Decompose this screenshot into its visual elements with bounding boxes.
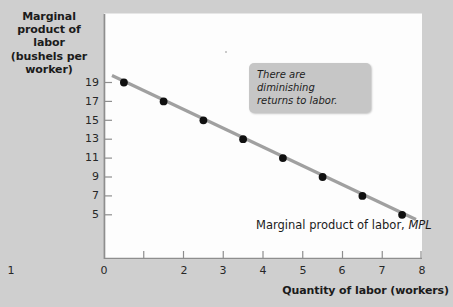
- x-tick-label-5: 5: [292, 264, 314, 277]
- x-tick-label-4: 4: [252, 264, 274, 277]
- callout-line-1: There are diminishing: [257, 68, 363, 94]
- speck-artifact: [225, 51, 227, 53]
- curve-label-mpl: MPL: [408, 218, 431, 232]
- data-point-6: [359, 192, 367, 200]
- data-point-5: [319, 173, 327, 181]
- x-tick-label-8: 8: [411, 264, 433, 277]
- x-tick-label-1: 1: [0, 264, 22, 277]
- x-axis-title: Quantity of labor (workers): [213, 284, 449, 297]
- x-tick-label-7: 7: [371, 264, 393, 277]
- y-tick-label-5: 5: [73, 208, 99, 221]
- y-tick-label-15: 15: [73, 114, 99, 127]
- x-tick-label-6: 6: [331, 264, 353, 277]
- curve-label-text: Marginal product of labor,: [256, 218, 408, 232]
- data-point-4: [279, 154, 287, 162]
- x-tick-marks: [144, 251, 421, 258]
- y-axis-title-line-4: worker): [0, 63, 98, 76]
- y-axis-title-line-2: product of labor: [0, 23, 98, 49]
- y-tick-label-17: 17: [73, 95, 99, 108]
- x-tick-label-3: 3: [212, 264, 234, 277]
- y-axis-title-line-1: Marginal: [0, 10, 98, 23]
- y-tick-label-11: 11: [73, 151, 99, 164]
- y-tick-marks: [105, 83, 112, 215]
- y-tick-label-13: 13: [73, 132, 99, 145]
- y-tick-label-19: 19: [73, 76, 99, 89]
- marginal-product-of-labor-chart: Marginal product of labor (bushels per w…: [0, 0, 453, 307]
- data-point-3: [239, 135, 247, 143]
- data-point-2: [200, 116, 208, 124]
- y-axis-title: Marginal product of labor (bushels per w…: [0, 10, 98, 76]
- callout-line-2: returns to labor.: [257, 94, 363, 107]
- diminishing-returns-callout: There are diminishing returns to labor.: [249, 63, 371, 113]
- x-tick-label-0: 0: [93, 264, 115, 277]
- y-tick-label-7: 7: [73, 189, 99, 202]
- curve-label: Marginal product of labor, MPL: [256, 218, 432, 232]
- y-axis-title-line-3: (bushels per: [0, 50, 98, 63]
- x-tick-label-2: 2: [173, 264, 195, 277]
- y-tick-label-9: 9: [73, 170, 99, 183]
- data-point-1: [160, 98, 168, 106]
- data-point-0: [120, 79, 128, 87]
